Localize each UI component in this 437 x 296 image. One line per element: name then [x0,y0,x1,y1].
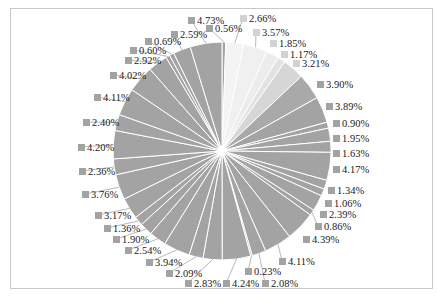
legend-swatch-icon [79,168,86,175]
data-label: 2.39% [320,209,356,220]
legend-swatch-icon [303,236,310,243]
pie-chart [0,0,437,296]
legend-swatch-icon [333,135,340,142]
data-label: 4.02% [110,70,146,81]
data-label-text: 3.89% [335,101,362,112]
data-label-text: 4.39% [312,234,339,245]
data-label: 3.90% [317,79,353,90]
data-label: 2.66% [240,13,276,24]
legend-swatch-icon [270,40,277,47]
legend-swatch-icon [315,223,322,230]
legend-swatch-icon [279,258,286,265]
legend-swatch-icon [320,211,327,218]
legend-swatch-icon [317,81,324,88]
data-label-text: 1.34% [337,185,364,196]
data-label-text: 4.20% [87,142,114,153]
data-label-text: 1.06% [334,198,361,209]
data-label-text: 4.17% [342,164,369,175]
legend-swatch-icon [240,15,247,22]
legend-swatch-icon [325,200,332,207]
data-label: 1.34% [328,185,364,196]
data-label: 3.76% [82,189,118,200]
data-label: 2.54% [125,245,161,256]
data-label-text: 1.90% [122,234,149,245]
data-label-text: 1.85% [279,38,306,49]
legend-swatch-icon [326,103,333,110]
data-label: 1.06% [325,198,361,209]
data-label: 0.86% [315,221,351,232]
data-label-text: 2.39% [329,209,356,220]
data-label: 1.63% [333,148,369,159]
legend-swatch-icon [171,31,178,38]
data-label-text: 0.86% [324,221,351,232]
data-label: 4.73% [188,15,224,26]
data-label: 4.11% [279,256,315,267]
data-label: 1.95% [333,133,369,144]
data-label: 2.09% [166,268,202,279]
legend-swatch-icon [95,212,102,219]
legend-swatch-icon [185,280,192,287]
legend-swatch-icon [188,17,195,24]
data-label: 4.20% [78,142,114,153]
data-label-text: 2.59% [180,29,207,40]
data-label-text: 2.83% [194,278,221,289]
data-label-text: 0.90% [342,118,369,129]
data-label-text: 3.76% [91,189,118,200]
legend-swatch-icon [83,119,90,126]
data-label-text: 4.11% [103,92,130,103]
data-label: 4.17% [333,164,369,175]
data-label: 4.24% [223,278,259,289]
data-label-text: 3.21% [302,58,329,69]
data-label: 2.83% [185,278,221,289]
legend-swatch-icon [125,247,132,254]
data-label-text: 1.95% [342,133,369,144]
legend-swatch-icon [223,280,230,287]
legend-swatch-icon [146,259,153,266]
legend-swatch-icon [82,191,89,198]
data-label: 3.17% [95,210,131,221]
legend-swatch-icon [281,51,288,58]
data-label: 2.92% [125,55,161,66]
legend-swatch-icon [166,270,173,277]
data-label: 2.40% [83,117,119,128]
data-label: 3.21% [293,58,329,69]
data-label-text: 3.94% [155,257,182,268]
data-label-text: 2.40% [92,117,119,128]
data-label: 1.90% [113,234,149,245]
data-label-text: 1.63% [342,148,369,159]
legend-swatch-icon [94,94,101,101]
data-label-text: 4.73% [197,15,224,26]
data-label-text: 3.57% [262,27,289,38]
legend-swatch-icon [113,236,120,243]
legend-swatch-icon [125,57,132,64]
data-label: 1.36% [104,223,140,234]
data-label: 4.39% [303,234,339,245]
data-label-text: 3.90% [326,79,353,90]
data-label-text: 2.09% [175,268,202,279]
data-label: 0.90% [333,118,369,129]
data-label: 2.59% [171,29,207,40]
legend-swatch-icon [253,29,260,36]
data-label-text: 4.24% [232,278,259,289]
data-label-text: 3.17% [104,210,131,221]
data-label: 2.08% [262,278,298,289]
legend-swatch-icon [293,60,300,67]
data-label: 2.36% [79,166,115,177]
legend-swatch-icon [130,47,137,54]
data-label-text: 4.11% [288,256,315,267]
data-label-text: 0.23% [254,266,281,277]
data-label-text: 4.02% [119,70,146,81]
data-label: 3.89% [326,101,362,112]
data-label: 3.94% [146,257,182,268]
legend-swatch-icon [262,280,269,287]
legend-swatch-icon [110,72,117,79]
data-label-text: 2.54% [134,245,161,256]
legend-swatch-icon [245,268,252,275]
legend-swatch-icon [104,225,111,232]
data-label: 0.23% [245,266,281,277]
legend-swatch-icon [328,187,335,194]
data-label: 1.85% [270,38,306,49]
legend-swatch-icon [333,120,340,127]
data-label-text: 2.92% [134,55,161,66]
data-label-text: 2.36% [88,166,115,177]
